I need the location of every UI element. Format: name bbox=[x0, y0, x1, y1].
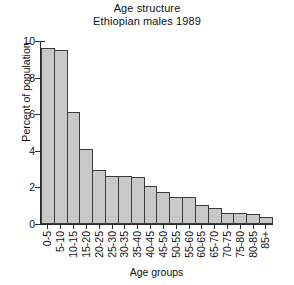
x-tick-label: 5-10 bbox=[55, 231, 66, 252]
chart-title-line-2: Ethiopian males 1989 bbox=[0, 15, 294, 28]
x-tick-label: 40-45 bbox=[145, 231, 156, 258]
x-tick bbox=[131, 225, 144, 230]
bar bbox=[79, 149, 93, 224]
x-tick-mark bbox=[112, 225, 113, 229]
x-tick-mark bbox=[253, 225, 254, 229]
y-tick-label: 10 bbox=[7, 36, 35, 46]
y-tick-label: 8 bbox=[7, 73, 35, 83]
x-tick-mark bbox=[60, 225, 61, 229]
x-tick bbox=[67, 225, 80, 230]
x-tick-mark bbox=[137, 225, 138, 229]
x-axis-ticks bbox=[41, 225, 272, 230]
bar bbox=[169, 197, 183, 224]
x-tick bbox=[169, 225, 182, 230]
y-tick-label: 6 bbox=[7, 109, 35, 119]
chart-title: Age structure Ethiopian males 1989 bbox=[0, 2, 294, 28]
x-axis-label: Age groups bbox=[41, 266, 272, 278]
x-tick-label: 10-15 bbox=[68, 231, 79, 258]
bar bbox=[92, 170, 106, 224]
bar bbox=[118, 176, 132, 224]
x-tick bbox=[246, 225, 259, 230]
x-tick-mark bbox=[163, 225, 164, 229]
bar bbox=[156, 192, 170, 224]
x-tick bbox=[195, 225, 208, 230]
x-tick-mark bbox=[73, 225, 74, 229]
x-tick-label: 0-5 bbox=[42, 231, 53, 246]
x-tick bbox=[79, 225, 92, 230]
bar bbox=[131, 177, 145, 224]
bar bbox=[221, 213, 235, 224]
bar bbox=[246, 214, 260, 224]
bar bbox=[105, 176, 119, 224]
x-tick-mark bbox=[47, 225, 48, 229]
bar-series bbox=[41, 41, 272, 224]
bar bbox=[259, 217, 273, 224]
x-tick bbox=[54, 225, 67, 230]
bar bbox=[195, 205, 209, 224]
x-tick-label: 70-75 bbox=[222, 231, 233, 258]
x-tick-mark bbox=[86, 225, 87, 229]
x-tick-mark bbox=[189, 225, 190, 229]
x-tick-label: 45-50 bbox=[157, 231, 168, 258]
x-tick bbox=[259, 225, 272, 230]
x-tick bbox=[233, 225, 246, 230]
x-tick-label: 55-60 bbox=[183, 231, 194, 258]
x-tick-label: 35-40 bbox=[132, 231, 143, 258]
x-tick-label: 65-70 bbox=[209, 231, 220, 258]
x-tick bbox=[156, 225, 169, 230]
x-tick-mark bbox=[99, 225, 100, 229]
x-tick-label: 25-30 bbox=[106, 231, 117, 258]
plot-area: 0246810 0-55-1010-1515-2020-2525-3030-35… bbox=[41, 41, 272, 224]
y-tick-label: 0 bbox=[7, 219, 35, 229]
x-tick-mark bbox=[124, 225, 125, 229]
x-tick-label: 20-25 bbox=[93, 231, 104, 258]
x-tick-label: 30-35 bbox=[119, 231, 130, 258]
x-tick-mark bbox=[150, 225, 151, 229]
x-tick bbox=[41, 225, 54, 230]
chart-title-line-1: Age structure bbox=[0, 2, 294, 15]
bar bbox=[144, 186, 158, 224]
x-tick-label: 80-85 bbox=[247, 231, 258, 258]
x-tick bbox=[118, 225, 131, 230]
x-tick-label: 50-55 bbox=[170, 231, 181, 258]
x-tick bbox=[221, 225, 234, 230]
x-tick-label: 60-65 bbox=[196, 231, 207, 258]
x-tick bbox=[92, 225, 105, 230]
x-tick-mark bbox=[265, 225, 266, 229]
bar bbox=[54, 50, 68, 224]
bar bbox=[41, 48, 55, 224]
y-tick-label: 4 bbox=[7, 146, 35, 156]
x-tick-mark bbox=[201, 225, 202, 229]
x-tick-label: 75-80 bbox=[234, 231, 245, 258]
x-tick-mark bbox=[240, 225, 241, 229]
x-tick-label: 15-20 bbox=[80, 231, 91, 258]
x-tick-mark bbox=[214, 225, 215, 229]
x-tick bbox=[144, 225, 157, 230]
x-tick-mark bbox=[227, 225, 228, 229]
bar bbox=[67, 112, 81, 224]
x-tick bbox=[105, 225, 118, 230]
x-tick bbox=[208, 225, 221, 230]
x-tick bbox=[182, 225, 195, 230]
bar bbox=[208, 208, 222, 224]
x-tick-label: 85+ bbox=[260, 231, 271, 249]
x-tick-mark bbox=[176, 225, 177, 229]
bar-chart-figure: Age structure Ethiopian males 1989 Perce… bbox=[0, 0, 294, 285]
bar bbox=[182, 197, 196, 224]
y-tick-label: 2 bbox=[7, 182, 35, 192]
bar bbox=[233, 213, 247, 224]
